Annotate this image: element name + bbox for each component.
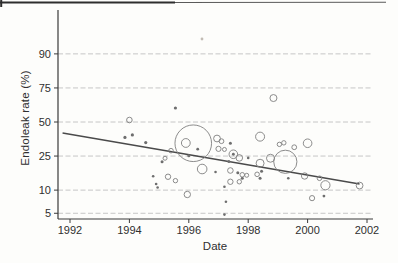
study-bubble: [173, 178, 177, 182]
study-dot: [259, 177, 262, 180]
study-bubble: [301, 173, 307, 179]
study-dot: [156, 186, 159, 189]
study-bubble: [309, 196, 314, 201]
x-tick-label: 1998: [236, 224, 260, 236]
y-axis-title: Endoleak rate (%): [19, 70, 31, 165]
study-bubble: [184, 191, 190, 197]
study-dot: [131, 133, 134, 136]
study-dot: [229, 142, 232, 145]
study-bubble: [270, 95, 277, 102]
study-bubble: [228, 168, 234, 174]
study-dot: [152, 175, 155, 178]
study-dot: [225, 200, 228, 203]
study-dot: [323, 195, 326, 198]
study-bubble: [274, 150, 297, 173]
study-dot: [236, 171, 239, 174]
study-bubble: [303, 139, 312, 148]
plot-area: 51025507590199219941996199820002002: [0, 0, 398, 263]
study-bubble: [356, 182, 363, 189]
scan-speck: [201, 38, 204, 41]
study-bubble: [237, 180, 241, 184]
y-tick-label: 10: [39, 184, 51, 196]
study-bubble: [222, 147, 226, 151]
study-bubble: [292, 145, 297, 150]
x-tick-label: 1994: [117, 224, 141, 236]
y-tick-label: 5: [45, 207, 51, 219]
study-bubble: [228, 179, 233, 184]
study-dot: [214, 171, 217, 174]
study-dot: [123, 136, 126, 139]
y-tick-label: 75: [39, 82, 51, 94]
study-dot: [247, 157, 250, 160]
x-tick-label: 1996: [177, 224, 201, 236]
study-bubble: [181, 139, 190, 148]
study-bubble: [245, 173, 249, 177]
study-dot: [196, 148, 199, 151]
x-axis-title: Date: [203, 240, 227, 252]
study-bubble: [282, 141, 286, 145]
study-bubble: [197, 164, 207, 174]
study-bubble: [165, 174, 170, 179]
study-dot: [227, 160, 230, 163]
study-bubble: [277, 142, 281, 146]
study-bubble: [321, 181, 330, 190]
study-dot: [260, 170, 263, 173]
study-dot: [223, 213, 226, 216]
x-tick-label: 2000: [295, 224, 319, 236]
y-tick-label: 25: [39, 150, 51, 162]
y-tick-label: 50: [39, 116, 51, 128]
x-tick-label: 1992: [58, 224, 82, 236]
study-dot: [155, 183, 158, 186]
study-bubble: [266, 154, 274, 162]
study-bubble: [216, 146, 221, 151]
study-bubble: [240, 173, 245, 178]
study-dot: [161, 160, 164, 163]
study-dot: [287, 177, 290, 180]
study-dot: [223, 186, 226, 189]
study-dot: [174, 106, 177, 109]
study-bubble: [256, 159, 264, 167]
x-tick-label: 2002: [355, 224, 379, 236]
study-bubble: [255, 172, 260, 177]
endoleak-rate-chart: 51025507590199219941996199820002002 Endo…: [0, 0, 398, 263]
y-tick-label: 90: [39, 48, 51, 60]
study-bubble: [256, 132, 265, 141]
study-dot: [187, 154, 190, 157]
study-dot: [232, 153, 235, 156]
study-bubble: [163, 156, 167, 160]
study-dot: [144, 141, 147, 144]
study-bubble: [219, 139, 224, 144]
